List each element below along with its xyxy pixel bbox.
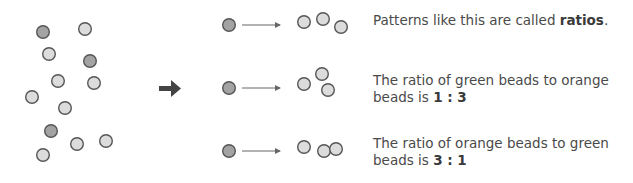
orange-bead <box>52 75 65 88</box>
orange-bead <box>79 23 92 36</box>
bead-groups <box>223 13 348 158</box>
orange-bead <box>59 102 72 115</box>
orange-bead <box>43 48 56 61</box>
orange-bead <box>316 68 329 81</box>
orange-bead <box>298 141 311 154</box>
ratio-value-1-3: 1 : 3 <box>433 89 467 105</box>
orange-bead <box>37 149 50 162</box>
orange-bead <box>100 135 113 148</box>
orange-bead <box>71 138 84 151</box>
bead-group <box>223 68 335 97</box>
green-bead <box>223 145 236 158</box>
orange-bead <box>322 84 335 97</box>
ratios-definition-text: Patterns like this are called ratios. <box>373 12 628 29</box>
orange-bead <box>317 13 330 26</box>
scattered-beads <box>26 23 113 162</box>
orange-bead <box>88 77 101 90</box>
green-bead <box>223 19 236 32</box>
ratios-term: ratios <box>560 12 604 28</box>
orange-bead <box>26 91 39 104</box>
bead-group <box>223 13 348 34</box>
green-bead <box>223 82 236 95</box>
orange-bead <box>298 16 311 29</box>
green-bead <box>37 26 50 39</box>
orange-bead <box>330 143 343 156</box>
orange-bead <box>318 145 331 158</box>
big-arrow-icon <box>159 80 181 97</box>
ratio-value-3-1: 3 : 1 <box>433 152 467 168</box>
orange-to-green-ratio-text: The ratio of orange beads to green beads… <box>373 135 628 169</box>
orange-bead <box>298 78 311 91</box>
orange-bead <box>335 21 348 34</box>
green-to-orange-ratio-text: The ratio of green beads to orange beads… <box>373 72 628 106</box>
green-bead <box>84 55 97 68</box>
bead-group <box>223 141 343 158</box>
green-bead <box>45 125 58 138</box>
